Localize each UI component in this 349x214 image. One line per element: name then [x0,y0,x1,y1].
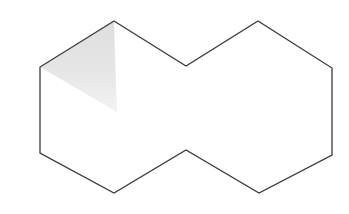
geometric-figure [0,0,349,214]
figure-background [0,0,349,214]
figure-canvas [0,0,349,214]
